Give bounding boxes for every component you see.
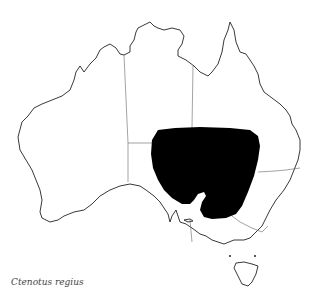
island	[254, 255, 256, 257]
species-caption: Ctenotus regius	[11, 277, 84, 287]
tasmania-coastline	[234, 262, 258, 286]
distribution-range	[151, 127, 260, 219]
island	[229, 255, 231, 257]
kangaroo-island	[184, 219, 193, 222]
australia-map	[0, 0, 319, 303]
